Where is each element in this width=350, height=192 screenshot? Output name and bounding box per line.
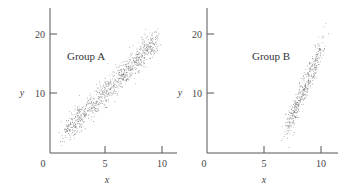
data-point — [310, 67, 311, 68]
data-point — [129, 77, 130, 78]
data-point — [126, 61, 127, 62]
data-point — [309, 76, 310, 77]
data-point — [91, 96, 92, 97]
data-point — [67, 126, 68, 127]
data-point — [291, 122, 292, 123]
data-point — [145, 29, 146, 30]
data-point — [61, 121, 62, 122]
data-point — [317, 56, 318, 57]
data-point — [59, 132, 60, 133]
data-point — [88, 118, 89, 119]
data-point — [307, 90, 308, 91]
data-point — [317, 48, 318, 49]
data-point — [312, 78, 313, 79]
data-point — [93, 106, 94, 107]
data-point — [314, 64, 315, 65]
data-point — [298, 101, 299, 102]
data-point — [99, 104, 100, 105]
data-point — [144, 66, 145, 67]
data-point — [93, 113, 94, 114]
data-point — [94, 107, 95, 108]
data-point — [302, 86, 303, 87]
data-point — [153, 54, 154, 55]
data-point — [286, 126, 287, 127]
data-point — [78, 119, 79, 120]
data-point — [86, 114, 87, 115]
data-point — [315, 55, 316, 56]
data-point — [75, 130, 76, 131]
data-point — [158, 46, 159, 47]
data-point — [96, 91, 97, 92]
data-point — [106, 90, 107, 91]
data-point — [307, 89, 308, 90]
data-point — [99, 90, 100, 91]
data-point — [297, 104, 298, 105]
x-tick-label: 0 — [41, 158, 46, 169]
data-point — [304, 72, 305, 73]
data-point — [292, 106, 293, 107]
data-point — [106, 93, 107, 94]
data-point — [103, 87, 104, 88]
data-point — [158, 34, 159, 35]
data-point — [303, 99, 304, 100]
data-point — [144, 58, 145, 59]
data-point — [308, 81, 309, 82]
data-point — [72, 119, 73, 120]
data-point — [305, 87, 306, 88]
data-point — [81, 118, 82, 119]
data-point — [156, 48, 157, 49]
data-point — [287, 134, 288, 135]
data-point — [287, 119, 288, 120]
data-point — [126, 79, 127, 80]
data-point — [113, 92, 114, 93]
data-point — [303, 75, 304, 76]
data-point — [82, 121, 83, 122]
data-point — [141, 37, 142, 38]
data-point — [125, 61, 126, 62]
data-point — [115, 87, 116, 88]
data-point — [311, 76, 312, 77]
data-point — [132, 58, 133, 59]
data-point — [67, 125, 68, 126]
data-point — [121, 84, 122, 85]
data-point — [120, 70, 121, 71]
data-point — [304, 89, 305, 90]
data-point — [144, 57, 145, 58]
data-point — [109, 75, 110, 76]
data-point — [113, 76, 114, 77]
data-point — [320, 54, 321, 55]
data-point — [91, 117, 92, 118]
data-point — [118, 70, 119, 71]
data-point — [139, 62, 140, 63]
data-point — [100, 84, 101, 85]
data-point — [105, 105, 106, 106]
data-point — [105, 88, 106, 89]
data-point — [84, 116, 85, 117]
data-point — [91, 119, 92, 120]
data-point — [113, 72, 114, 73]
data-point — [120, 86, 121, 87]
data-point — [110, 89, 111, 90]
data-point — [320, 49, 321, 50]
data-point — [101, 100, 102, 101]
data-point — [317, 60, 318, 61]
data-point — [86, 105, 87, 106]
data-point — [299, 108, 300, 109]
data-point — [127, 66, 128, 67]
data-point — [104, 94, 105, 95]
data-point — [117, 87, 118, 88]
data-point — [293, 121, 294, 122]
data-point — [97, 92, 98, 93]
y-axis-label: y — [177, 87, 183, 98]
data-point — [157, 50, 158, 51]
data-point — [289, 127, 290, 128]
data-point — [67, 127, 68, 128]
data-point — [142, 55, 143, 56]
data-point — [315, 70, 316, 71]
data-point — [157, 40, 158, 41]
data-point — [90, 93, 91, 94]
data-point — [128, 63, 129, 64]
data-point — [136, 61, 137, 62]
data-point — [92, 108, 93, 109]
data-point — [288, 110, 289, 111]
